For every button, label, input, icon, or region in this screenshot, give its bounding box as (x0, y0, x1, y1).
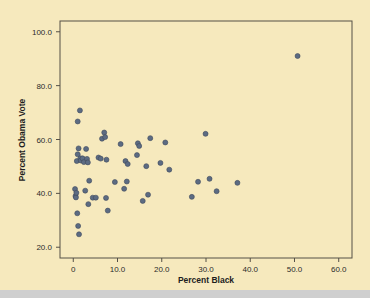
x-tick-label: 40.0 (242, 265, 258, 274)
data-point (203, 131, 208, 136)
data-point (77, 232, 82, 237)
x-tick-label: 60.0 (331, 265, 347, 274)
data-point (75, 119, 80, 124)
data-point (105, 208, 110, 213)
x-tick-label: 10.0 (110, 265, 126, 274)
y-axis-ticks: 20.040.060.080.0100.0 (32, 28, 60, 252)
x-tick-label: 50.0 (287, 265, 303, 274)
x-axis-ticks: 010.020.030.040.050.060.0 (71, 258, 347, 274)
window-bottom-strip (0, 290, 370, 298)
data-point (87, 178, 92, 183)
y-tick-label: 60.0 (36, 136, 52, 145)
data-point (103, 135, 108, 140)
data-point (73, 195, 78, 200)
data-point (295, 54, 300, 59)
data-point (104, 195, 109, 200)
data-point (85, 160, 90, 165)
data-point (214, 189, 219, 194)
y-tick-label: 80.0 (36, 82, 52, 91)
data-point (118, 142, 123, 147)
data-point (77, 108, 82, 113)
data-point (75, 211, 80, 216)
data-point (137, 143, 142, 148)
x-axis-label: Percent Black (178, 275, 234, 285)
figure-canvas: 010.020.030.040.050.060.0 20.040.060.080… (0, 0, 370, 298)
data-points (73, 54, 301, 237)
data-point (140, 198, 145, 203)
data-point (93, 195, 98, 200)
data-point (112, 180, 117, 185)
data-point (84, 146, 89, 151)
data-point (102, 130, 107, 135)
x-tick-label: 20.0 (154, 265, 170, 274)
data-point (167, 167, 172, 172)
data-point (207, 176, 212, 181)
data-point (124, 179, 129, 184)
y-tick-label: 40.0 (36, 189, 52, 198)
data-point (76, 223, 81, 228)
data-point (74, 190, 79, 195)
scatter-plot: 010.020.030.040.050.060.0 20.040.060.080… (0, 0, 370, 298)
y-tick-label: 100.0 (32, 28, 53, 37)
data-point (76, 146, 81, 151)
x-tick-label: 30.0 (198, 265, 214, 274)
data-point (189, 194, 194, 199)
data-point (196, 179, 201, 184)
x-tick-label: 0 (71, 265, 76, 274)
data-point (134, 153, 139, 158)
data-point (83, 188, 88, 193)
data-point (104, 157, 109, 162)
data-point (235, 180, 240, 185)
y-tick-label: 20.0 (36, 243, 52, 252)
data-point (163, 140, 168, 145)
data-point (148, 136, 153, 141)
data-point (125, 162, 130, 167)
data-point (122, 186, 127, 191)
data-point (86, 202, 91, 207)
data-point (98, 156, 103, 161)
data-point (144, 164, 149, 169)
data-point (146, 192, 151, 197)
y-axis-label: Percent Obama Vote (17, 98, 27, 181)
data-point (158, 160, 163, 165)
